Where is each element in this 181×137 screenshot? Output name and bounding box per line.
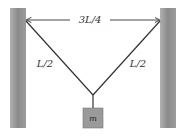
right-string-label: L/2 [129,58,146,69]
left-wall [10,8,26,128]
diagram-canvas: 3L/4 L/2 L/2 m [0,0,181,137]
left-string-label: L/2 [36,58,53,69]
width-label: 3L/4 [79,14,102,25]
right-wall [160,8,176,128]
mass-label: m [89,114,97,123]
right-string [93,21,160,95]
